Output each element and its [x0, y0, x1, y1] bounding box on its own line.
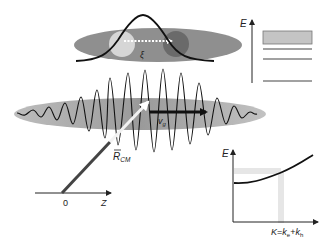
hole-circle [163, 31, 189, 57]
energy-axis-label: E [240, 18, 247, 29]
k-total-label: K=ke+kh [271, 227, 303, 237]
exciton-panel: ξ [74, 15, 242, 62]
highlight-horizontal [234, 168, 281, 174]
dispersion-panel: E K=ke+kh [222, 148, 318, 237]
rcm-vector-lower [62, 142, 110, 193]
z-axis-label: Z [100, 198, 107, 208]
energy-level-panel: E [240, 18, 312, 83]
exciton-diagram: ξ vg RCM 0 Z E E [0, 0, 334, 237]
highlight-vertical [278, 172, 284, 223]
rcm-label: RCM [113, 151, 131, 163]
dispersion-y-label: E [222, 148, 229, 159]
origin-label: 0 [63, 198, 68, 208]
continuum-band [263, 31, 312, 44]
